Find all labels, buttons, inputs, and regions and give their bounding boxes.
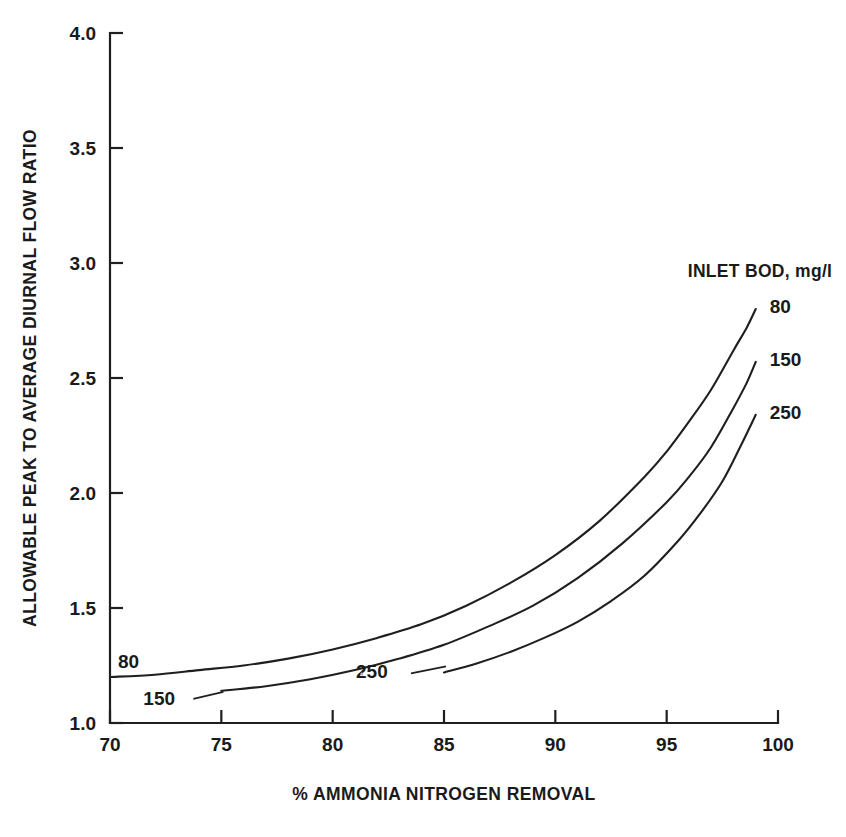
y-tick-label: 1.0 bbox=[70, 713, 96, 734]
series-start-label-80: 80 bbox=[118, 651, 139, 672]
legend-title: INLET BOD, mg/l bbox=[688, 261, 833, 281]
y-tick-label: 4.0 bbox=[70, 23, 96, 44]
chart-figure: 1.01.52.02.53.03.54.0 707580859095100 AL… bbox=[0, 0, 846, 837]
series-start-label-250: 250 bbox=[356, 661, 388, 682]
x-axis-title: % AMMONIA NITROGEN REMOVAL bbox=[292, 784, 595, 804]
y-axis-title: ALLOWABLE PEAK TO AVERAGE DIURNAL FLOW R… bbox=[20, 129, 40, 627]
x-tick-label: 100 bbox=[762, 734, 794, 755]
x-tick-label: 75 bbox=[211, 734, 233, 755]
series-end-label-250: 250 bbox=[770, 402, 802, 423]
series-end-label-150: 150 bbox=[770, 349, 802, 370]
y-tick-label: 1.5 bbox=[70, 598, 97, 619]
series-start-label-150: 150 bbox=[143, 688, 175, 709]
y-tick-label: 2.0 bbox=[70, 483, 96, 504]
x-tick-label: 85 bbox=[433, 734, 455, 755]
series-end-label-80: 80 bbox=[770, 296, 791, 317]
scan-speck bbox=[360, 672, 363, 675]
x-tick-label: 80 bbox=[322, 734, 343, 755]
y-tick-label: 3.0 bbox=[70, 253, 96, 274]
y-tick-label: 3.5 bbox=[70, 138, 97, 159]
x-tick-label: 70 bbox=[99, 734, 120, 755]
chart-background bbox=[0, 0, 846, 837]
x-tick-label: 95 bbox=[656, 734, 678, 755]
y-tick-label: 2.5 bbox=[70, 368, 97, 389]
x-tick-label: 90 bbox=[545, 734, 566, 755]
chart-canvas: 1.01.52.02.53.03.54.0 707580859095100 AL… bbox=[0, 0, 846, 837]
